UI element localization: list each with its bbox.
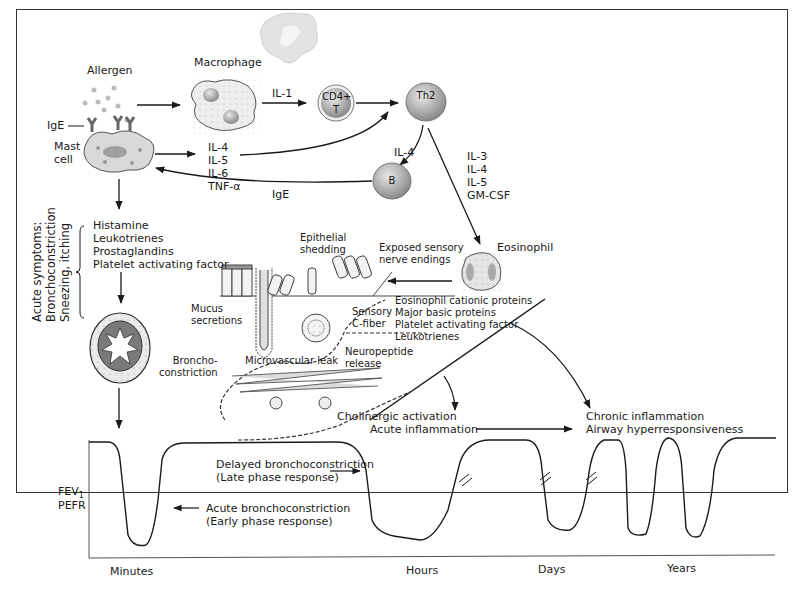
- cytokine-il4-b: IL-4: [467, 163, 510, 176]
- cytokine-il6: IL-6: [208, 167, 241, 180]
- cytokine-gmcsf: GM-CSF: [467, 189, 510, 202]
- eos-mediator-mbp: Major basic proteins: [395, 307, 532, 319]
- x-label-days: Days: [538, 563, 565, 576]
- th2-to-b-il4-label: IL-4: [394, 146, 414, 159]
- mucus-secretions-label: Mucus secretions: [191, 303, 242, 327]
- neuropeptide-release-label: Neuropeptide release: [345, 346, 413, 370]
- fev-text: FEV: [58, 485, 79, 498]
- bronchus-cross-section: [90, 313, 150, 383]
- eos-mediator-ecp: Eosinophil cationic proteins: [395, 295, 532, 307]
- cytokine-il3: IL-3: [467, 150, 510, 163]
- mediator-leukotrienes: Leukotrienes: [93, 232, 229, 245]
- epithelial-line1: Epithelial: [300, 232, 346, 244]
- neuropeptide-line2: release: [345, 358, 413, 370]
- eosinophil-shape: [460, 250, 504, 294]
- early-phase-label: Acute bronchoconstriction (Early phase r…: [206, 502, 350, 528]
- cytokine-il5-b: IL-5: [467, 176, 510, 189]
- mediator-histamine: Histamine: [93, 219, 229, 232]
- y-axis-label-pefr: PEFR: [58, 499, 86, 512]
- fev1-curve: [89, 438, 776, 546]
- mast-cell-label-line2: cell: [54, 153, 80, 166]
- x-label-hours: Hours: [406, 564, 438, 577]
- x-label-minutes: Minutes: [110, 565, 153, 578]
- b-to-mast-ige-label: IgE: [272, 188, 289, 201]
- allergen-label: Allergen: [87, 64, 132, 77]
- neuropeptide-line1: Neuropeptide: [345, 346, 413, 358]
- mast-cell-label-line1: Mast: [54, 140, 80, 153]
- epithelial-shedding-label: Epithelial shedding: [300, 232, 346, 256]
- early-phase-line2: (Early phase response): [206, 515, 350, 528]
- th2-eosinophil-cytokines: IL-3 IL-4 IL-5 GM-CSF: [467, 150, 510, 202]
- bronchoconstriction-label: Broncho- constriction: [159, 355, 218, 379]
- acute-inflammation-label: Acute inflammation: [370, 423, 478, 436]
- b-cell-label: B: [382, 174, 402, 187]
- macrophage-shape: [190, 13, 317, 134]
- mediator-prostaglandins: Prostaglandins: [93, 245, 229, 258]
- chronic-line1: Chronic inflammation: [586, 410, 743, 423]
- cytokine-il5: IL-5: [208, 154, 241, 167]
- late-phase-label: Delayed bronchoconstriction (Late phase …: [216, 458, 374, 484]
- cd4-label-line2: T: [322, 103, 350, 116]
- broncho-line1: Broncho-: [159, 355, 218, 367]
- late-phase-line1: Delayed bronchoconstriction: [216, 458, 374, 471]
- exposed-line2: nerve endings: [379, 254, 464, 266]
- cytokine-il4: IL-4: [208, 141, 241, 154]
- il1-label: IL-1: [272, 87, 292, 100]
- eosinophil-mediators-list: Eosinophil cationic proteins Major basic…: [395, 295, 532, 343]
- sensory-fiber-label: Sensory C-fiber: [352, 306, 392, 330]
- acute-symptoms-line1: Acute symptoms:: [30, 207, 44, 322]
- chronic-line2: Airway hyperresponsiveness: [586, 423, 743, 436]
- sensory-line2: C-fiber: [352, 318, 392, 330]
- late-phase-line2: (Late phase response): [216, 471, 374, 484]
- mast-cytokines-list: IL-4 IL-5 IL-6 TNF-α: [208, 141, 241, 193]
- eos-mediator-paf: Platelet activating factor: [395, 319, 532, 331]
- mediator-paf: Platelet activating factor: [93, 258, 229, 271]
- mucus-line2: secretions: [191, 315, 242, 327]
- cytokine-tnf: TNF-α: [208, 180, 241, 193]
- th2-label: Th2: [414, 89, 438, 102]
- cd4-label-line1: CD4+: [322, 90, 350, 103]
- cd4-t-label: CD4+ T: [322, 90, 350, 116]
- cholinergic-activation-label: Cholinergic activation: [337, 410, 457, 423]
- x-label-years: Years: [667, 562, 696, 575]
- broncho-line2: constriction: [159, 367, 218, 379]
- eos-mediator-lt: Leukotrienes: [395, 331, 532, 343]
- acute-symptoms-label: Acute symptoms: Bronchoconstriction Snee…: [30, 207, 72, 322]
- exposed-nerves-label: Exposed sensory nerve endings: [379, 242, 464, 266]
- ige-receptor-label: IgE: [47, 119, 64, 132]
- mast-cell-shape: [68, 116, 154, 172]
- eosinophil-label: Eosinophil: [497, 241, 553, 254]
- acute-symptoms-line2: Bronchoconstriction: [44, 207, 58, 322]
- chronic-inflammation-label: Chronic inflammation Airway hyperrespons…: [586, 410, 743, 436]
- early-phase-line1: Acute bronchoconstriction: [206, 502, 350, 515]
- sensory-line1: Sensory: [352, 306, 392, 318]
- microvascular-leak-label: Microvascular leak: [245, 355, 338, 367]
- mast-cell-label: Mast cell: [54, 140, 80, 166]
- mast-mediators-list: Histamine Leukotrienes Prostaglandins Pl…: [93, 219, 229, 271]
- epithelial-line2: shedding: [300, 244, 346, 256]
- mucus-line1: Mucus: [191, 303, 242, 315]
- exposed-line1: Exposed sensory: [379, 242, 464, 254]
- macrophage-label: Macrophage: [194, 56, 262, 69]
- fev1-graph: [89, 438, 776, 558]
- acute-symptoms-line3: Sneezing, itching: [58, 207, 72, 322]
